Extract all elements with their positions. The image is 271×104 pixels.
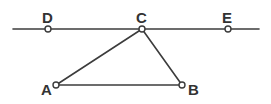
vertex-marker-d xyxy=(45,26,51,32)
vertex-label-b: B xyxy=(188,81,199,98)
vertex-label-c: C xyxy=(136,9,147,26)
segment-ac xyxy=(56,29,142,85)
vertex-label-a: A xyxy=(41,81,52,98)
vertex-marker-c xyxy=(139,26,145,32)
geometry-figure: D C E A B xyxy=(0,0,271,104)
vertex-marker-b xyxy=(179,82,185,88)
vertex-label-d: D xyxy=(42,9,53,26)
segment-bc xyxy=(142,29,182,85)
vertex-label-e: E xyxy=(222,9,232,26)
geometry-canvas: D C E A B xyxy=(0,0,271,104)
vertex-marker-a xyxy=(53,82,59,88)
vertex-marker-e xyxy=(225,26,231,32)
